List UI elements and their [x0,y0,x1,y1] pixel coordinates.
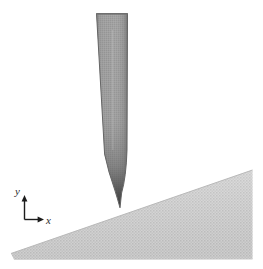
figure-canvas [0,0,263,269]
y-axis-label: y [15,186,20,197]
probe-tip [96,13,128,209]
x-axis-arrowhead [38,217,44,223]
coordinate-axis-indicator [22,195,44,222]
x-axis-label: x [46,215,51,226]
schematic-figure: y x [0,0,263,269]
y-axis-arrowhead [22,195,28,202]
probe-tip-darkening [96,13,128,209]
